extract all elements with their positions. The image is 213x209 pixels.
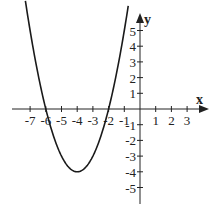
y-tick-label: -3: [125, 149, 136, 164]
x-tick-label: 1: [152, 113, 159, 128]
y-axis-arrow-icon: [136, 13, 144, 23]
x-tick-label: 3: [184, 113, 191, 128]
y-axis-label: y: [144, 12, 151, 27]
y-tick-label: -2: [125, 133, 136, 148]
x-tick-label: 2: [168, 113, 175, 128]
y-tick-label: -1: [125, 118, 136, 133]
y-tick-label: 4: [130, 39, 137, 54]
y-tick-label: -5: [125, 181, 136, 196]
y-tick-label: 5: [130, 24, 137, 39]
x-axis-label: x: [196, 92, 203, 107]
y-tick-label: -4: [125, 165, 136, 180]
parabola-curve: [25, 1, 128, 172]
x-tick-label: -7: [25, 113, 36, 128]
parabola-chart: -7-6-5-4-3-2-1123-5-4-3-2-112345 x y: [0, 0, 213, 209]
y-tick-label: 3: [130, 55, 137, 70]
x-tick-label: -4: [72, 113, 83, 128]
y-tick-label: 2: [130, 71, 137, 86]
axes: [12, 13, 209, 204]
y-tick-label: 1: [130, 86, 137, 101]
x-tick-label: -3: [87, 113, 98, 128]
x-tick-label: -5: [56, 113, 67, 128]
